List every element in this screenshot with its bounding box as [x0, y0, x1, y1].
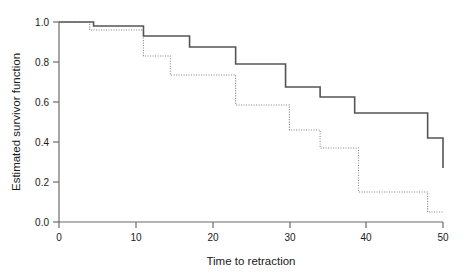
survival-chart: 1.0 0.8 0.6 0.4 0.2 0.0 0 10 20 30 40 50… [0, 0, 468, 279]
y-tick-label-0-0: 0.0 [35, 217, 49, 228]
x-tick-label-40: 40 [360, 232, 372, 243]
x-tick-label-30: 30 [284, 232, 296, 243]
y-tick-label-0-2: 0.2 [35, 177, 49, 188]
y-tick-label-1-0: 1.0 [35, 17, 49, 28]
x-tick-label-50: 50 [437, 232, 449, 243]
x-tick-label-0: 0 [56, 232, 62, 243]
y-axis-title: Estimated survivor function [10, 53, 22, 191]
x-axis-title: Time to retraction [206, 255, 295, 267]
y-tick-label-0-8: 0.8 [35, 57, 49, 68]
x-tick-label-10: 10 [130, 232, 142, 243]
x-tick-label-20: 20 [207, 232, 219, 243]
y-tick-label-0-4: 0.4 [35, 137, 49, 148]
y-tick-label-0-6: 0.6 [35, 97, 49, 108]
chart-background [0, 0, 468, 279]
